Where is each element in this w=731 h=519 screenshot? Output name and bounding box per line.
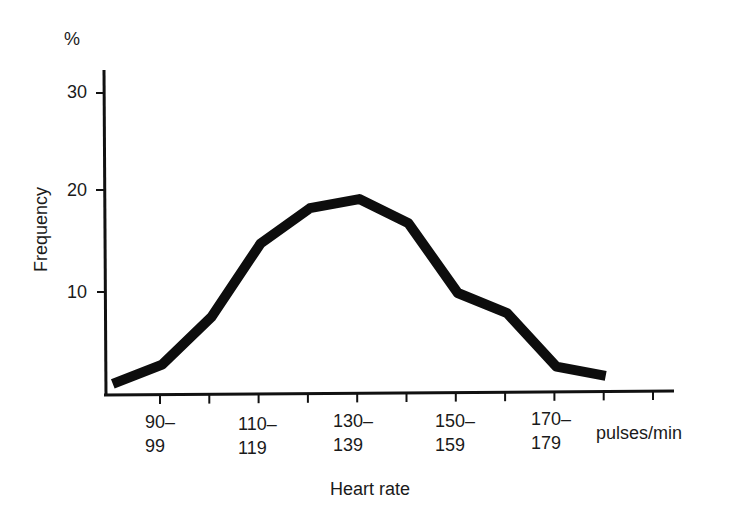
- y-tick-label-30: 30: [47, 81, 87, 103]
- x-axis-title: Heart rate: [330, 478, 410, 500]
- y-axis: [104, 70, 106, 395]
- y-tick-label-20: 20: [47, 179, 87, 201]
- frequency-curve: [113, 199, 606, 384]
- x-axis: [104, 391, 674, 395]
- x-category-label: 150– 159: [435, 410, 475, 456]
- y-axis-title: Frequency: [30, 187, 52, 272]
- x-category-label: 90– 99: [145, 411, 175, 457]
- y-tick-label-10: 10: [47, 281, 87, 303]
- x-category-label: 130– 139: [333, 410, 373, 456]
- x-unit-label: pulses/min: [596, 422, 682, 444]
- x-category-label: 170– 179: [531, 408, 571, 454]
- x-category-label: 110– 119: [238, 413, 277, 459]
- y-unit-label: %: [64, 28, 80, 50]
